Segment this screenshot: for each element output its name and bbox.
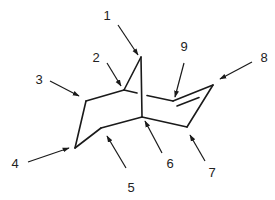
arrow-6 (145, 121, 162, 153)
label-1: 1 (103, 8, 110, 23)
label-2: 2 (92, 50, 99, 65)
arrow-3 (50, 81, 79, 96)
molecule-skeleton (75, 57, 213, 148)
label-5: 5 (127, 180, 134, 195)
label-3: 3 (35, 72, 42, 87)
label-4: 4 (11, 156, 18, 171)
bond-c5-c6 (101, 117, 142, 128)
pointer-arrows (28, 25, 252, 168)
bond-c1-c2 (124, 57, 141, 90)
bond-c2-c9-front-segment (124, 90, 137, 93)
bond-c6-c7 (142, 117, 187, 127)
arrow-7 (190, 135, 205, 161)
label-6: 6 (166, 156, 173, 171)
arrow-5 (107, 136, 126, 168)
bond-c2-c9-back-segment (147, 96, 173, 102)
label-8: 8 (260, 50, 267, 65)
bond-c7-c8 (187, 85, 213, 127)
arrow-1 (118, 25, 138, 55)
label-7: 7 (208, 165, 215, 180)
arrow-4 (28, 148, 69, 162)
arrow-9 (175, 63, 184, 97)
label-9: 9 (180, 39, 187, 54)
arrow-2 (107, 63, 121, 86)
bicyclic-structure-diagram: 1 2 3 4 5 6 7 8 9 (0, 0, 275, 200)
arrow-8 (220, 62, 252, 79)
bond-c8-c9 (173, 85, 213, 101)
bond-c2-c3 (86, 90, 124, 101)
bond-c1-c6-bridge (141, 57, 142, 117)
position-labels: 1 2 3 4 5 6 7 8 9 (11, 8, 267, 195)
